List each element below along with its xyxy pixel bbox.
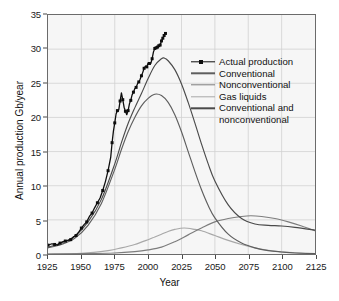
plot-area	[47, 14, 316, 255]
y-tick-label: 5	[36, 215, 41, 226]
legend-item[interactable]: Gas liquids	[190, 91, 330, 103]
legend-item-label: nonconventional	[190, 114, 289, 125]
legend-line-swatch	[190, 79, 216, 91]
legend-item[interactable]: Conventional and	[190, 102, 330, 114]
legend-line-swatch	[190, 91, 216, 103]
x-tick-label: 2050	[205, 261, 226, 272]
legend-line-swatch	[190, 102, 216, 114]
y-tick-label: 10	[31, 181, 41, 192]
legend-item[interactable]: Actual production	[190, 56, 330, 68]
legend-item[interactable]: Nonconventional	[190, 79, 330, 91]
x-tick-label: 2025	[171, 261, 192, 272]
legend-item-label: Actual production	[219, 56, 293, 67]
x-tick-label: 2075	[238, 261, 259, 272]
y-tick-label: 15	[31, 146, 41, 157]
chart-figure: 05101520253035 Annual production Gb/year…	[0, 0, 339, 301]
x-tick-mark	[114, 255, 115, 259]
y-tick-label: 30	[31, 43, 41, 54]
legend-item-label: Conventional and	[219, 102, 294, 113]
x-tick-mark	[182, 255, 183, 259]
legend-line-swatch	[190, 56, 216, 68]
y-axis-title: Annual production Gb/year	[14, 56, 25, 226]
y-tick-label: 20	[31, 112, 41, 123]
x-tick-label: 1975	[104, 261, 125, 272]
legend-item-label: Conventional	[219, 68, 275, 79]
y-tick-label: 25	[31, 77, 41, 88]
legend-item-label: Gas liquids	[219, 91, 266, 102]
chart-legend: Actual productionConventionalNonconventi…	[190, 56, 330, 126]
legend-item[interactable]: Conventional	[190, 68, 330, 80]
legend-item-label: Nonconventional	[219, 79, 290, 90]
y-tick-label: 35	[31, 9, 41, 20]
x-axis: 192519501975200020252050207521002125	[0, 255, 339, 277]
x-tick-mark	[215, 255, 216, 259]
x-tick-mark	[316, 255, 317, 259]
legend-line-swatch	[190, 68, 216, 80]
x-tick-label: 1950	[70, 261, 91, 272]
x-tick-label: 2125	[306, 261, 327, 272]
x-tick-label: 2100	[272, 261, 293, 272]
x-tick-label: 2000	[138, 261, 159, 272]
series-lines	[48, 15, 315, 254]
x-tick-mark	[249, 255, 250, 259]
x-axis-title: Year	[0, 277, 339, 288]
x-tick-mark	[282, 255, 283, 259]
x-tick-mark	[47, 255, 48, 259]
x-tick-label: 1925	[37, 261, 58, 272]
x-tick-mark	[148, 255, 149, 259]
legend-item[interactable]: nonconventional	[190, 114, 330, 126]
x-tick-mark	[81, 255, 82, 259]
